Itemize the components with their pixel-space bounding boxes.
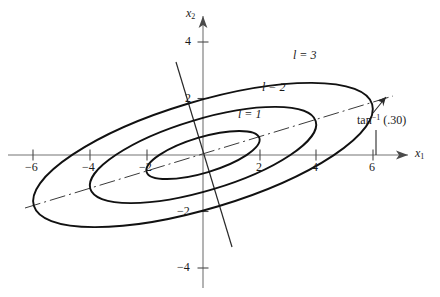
x-tick-label-6: 6 bbox=[369, 160, 375, 175]
x-tick-label-2: 2 bbox=[256, 160, 262, 175]
annotation-arrow-icon bbox=[377, 97, 386, 106]
x-tick-label-4: 4 bbox=[312, 160, 318, 175]
contour-label-l2: l = 2 bbox=[262, 80, 285, 95]
angle-annotation-prefix: tan bbox=[357, 113, 372, 127]
x-tick-label--2: −2 bbox=[139, 160, 152, 175]
contour-label-l3: l = 3 bbox=[293, 48, 316, 63]
y-tick-label--2: −2 bbox=[177, 204, 190, 219]
contour-plot-canvas bbox=[0, 0, 440, 297]
x-tick-label--4: −4 bbox=[82, 160, 95, 175]
angle-annotation-exponent: −1 bbox=[372, 113, 381, 122]
x-axis-label-sub: 1 bbox=[420, 152, 424, 161]
x-tick-label--6: −6 bbox=[25, 160, 38, 175]
y-tick-label--4: −4 bbox=[177, 260, 190, 275]
y-axis-label-sub: 2 bbox=[191, 12, 195, 21]
angle-annotation-suffix: (.30) bbox=[380, 113, 406, 127]
angle-annotation-label: tan−1 (.30) bbox=[357, 113, 406, 128]
y-axis-label: x2 bbox=[186, 6, 195, 21]
contour-label-l1: l = 1 bbox=[238, 107, 261, 122]
y-tick-label-2: 2 bbox=[185, 91, 191, 106]
x-axis-label: x1 bbox=[415, 146, 424, 161]
figure-root: −6 −4 −2 2 4 6 4 2 −2 −4 x1 x2 l = 1 l =… bbox=[0, 0, 440, 297]
y-tick-label-4: 4 bbox=[185, 34, 191, 49]
